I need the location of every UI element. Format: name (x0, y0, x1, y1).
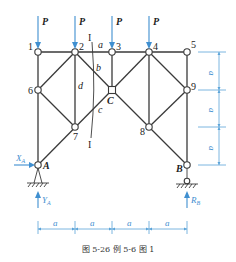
node-label-A: A (42, 160, 50, 171)
truss-diagram: I I a b c d 1 2 3 4 5 6 7 C 8 9 A B P (0, 0, 236, 262)
joint-C (109, 87, 116, 94)
svg-text:P: P (153, 16, 160, 27)
svg-text:P: P (116, 16, 123, 27)
section-label-bottom: I (88, 139, 91, 150)
joint-B (184, 162, 190, 168)
truss-members (38, 52, 187, 165)
dim-label-v2: a (207, 108, 217, 113)
reaction-XA-arrow: XA (14, 153, 35, 168)
joint-6 (35, 87, 41, 93)
vertical-dimensions: a a a (198, 52, 226, 165)
node-label-C: C (107, 95, 114, 106)
node-label-5: 5 (191, 39, 196, 50)
dim-label-v3: a (207, 146, 217, 151)
node-label-2: 2 (79, 41, 84, 52)
reaction-RB-arrow: RB (184, 191, 201, 208)
svg-text:XA: XA (15, 153, 26, 164)
svg-text:RB: RB (190, 195, 201, 206)
svg-text:YA: YA (42, 195, 51, 206)
member-label-c: c (98, 104, 103, 115)
reaction-YA-arrow: YA (35, 191, 51, 208)
node-label-1: 1 (28, 41, 33, 52)
dim-label-v1: a (207, 71, 217, 76)
horizontal-dimensions: a a a a (38, 218, 187, 234)
dim-label-h4: a (165, 218, 170, 228)
dim-label-h1: a (53, 218, 58, 228)
member-label-a: a (98, 39, 103, 50)
dim-label-h2: a (90, 218, 95, 228)
node-label-3: 3 (116, 41, 121, 52)
joint-2 (72, 49, 78, 55)
node-label-B: B (175, 163, 183, 174)
joint-3 (109, 49, 115, 55)
node-label-8: 8 (140, 126, 145, 137)
member-label-b: b (96, 62, 101, 73)
svg-text:P: P (79, 16, 86, 27)
load-arrow-1: P (35, 16, 49, 49)
member-label-d: d (78, 80, 84, 91)
joint-1 (35, 49, 41, 55)
node-label-6: 6 (28, 85, 33, 96)
node-label-4: 4 (153, 41, 158, 52)
joint-7 (72, 124, 78, 130)
node-label-9: 9 (191, 81, 196, 92)
svg-text:P: P (42, 16, 49, 27)
section-label-top: I (88, 32, 91, 43)
joint-9 (184, 87, 190, 93)
dim-label-h3: a (127, 218, 132, 228)
joint-8 (146, 124, 152, 130)
node-label-7: 7 (73, 131, 78, 142)
joint-5 (184, 49, 190, 55)
section-line (91, 42, 94, 138)
figure-caption: 图 5-26 例 5-6 图 1 (0, 243, 236, 254)
joint-4 (146, 49, 152, 55)
